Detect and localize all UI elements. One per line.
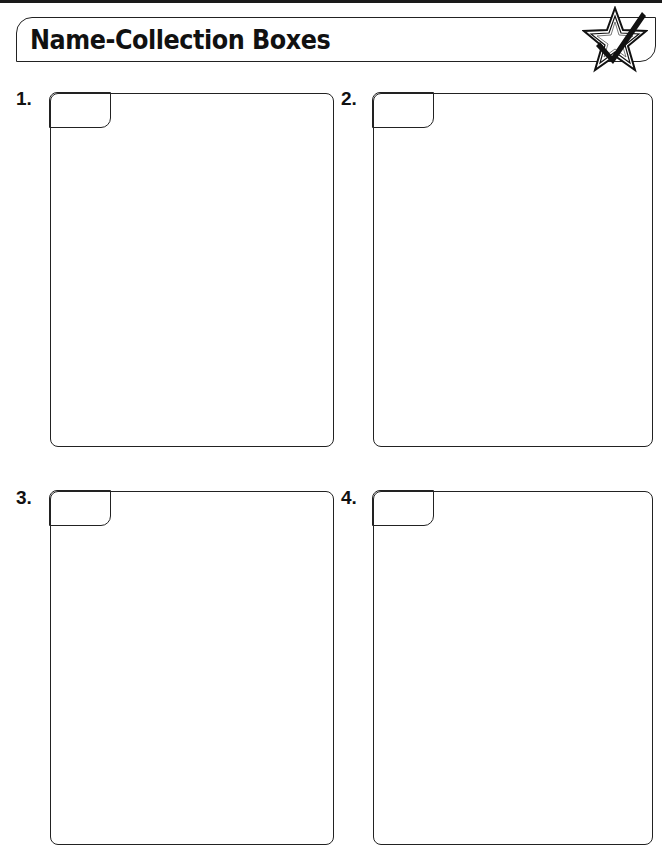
box-number-4: 4. bbox=[341, 487, 357, 509]
box-number-2: 2. bbox=[341, 88, 357, 110]
top-rule bbox=[0, 0, 662, 3]
name-tab-3[interactable] bbox=[49, 490, 111, 526]
name-tab-1[interactable] bbox=[49, 92, 111, 128]
name-collection-box-2[interactable] bbox=[373, 93, 653, 447]
page-title: Name-Collection Boxes bbox=[30, 22, 330, 58]
box-number-3: 3. bbox=[16, 487, 32, 509]
name-collection-box-3[interactable] bbox=[50, 491, 334, 845]
name-tab-4[interactable] bbox=[372, 490, 434, 526]
star-checkmark-icon bbox=[582, 6, 648, 74]
name-tab-2[interactable] bbox=[372, 92, 434, 128]
box-number-1: 1. bbox=[16, 88, 32, 110]
name-collection-box-1[interactable] bbox=[50, 93, 334, 447]
name-collection-box-4[interactable] bbox=[373, 491, 653, 845]
